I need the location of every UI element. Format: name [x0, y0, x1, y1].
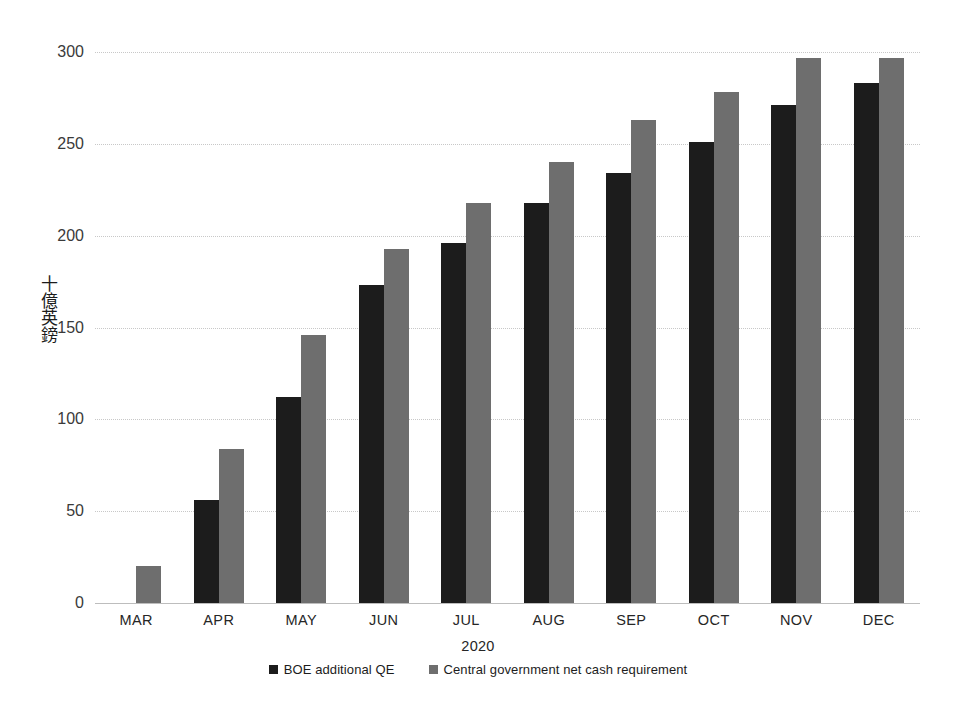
bar[interactable]: [524, 203, 549, 603]
y-tick-label: 150: [0, 319, 84, 337]
bar[interactable]: [606, 173, 631, 603]
x-tick-label: DEC: [838, 612, 921, 628]
bar-group: [95, 52, 178, 603]
bar[interactable]: [796, 58, 821, 603]
bar-group: [590, 52, 673, 603]
bar-group: [755, 52, 838, 603]
bar-group: [178, 52, 261, 603]
y-axis-tick-labels: 300 250 200 150 100 50 0: [0, 52, 84, 603]
chart-legend: BOE additional QE Central government net…: [0, 662, 956, 677]
x-tick-label: NOV: [755, 612, 838, 628]
bar[interactable]: [301, 335, 326, 603]
y-tick-label: 250: [0, 135, 84, 153]
x-tick-label: APR: [178, 612, 261, 628]
y-tick-label: 200: [0, 227, 84, 245]
x-axis-tick-labels: MARAPRMAYJUNJULAUGSEPOCTNOVDEC: [95, 612, 920, 636]
square-marker-icon: [269, 665, 278, 674]
bar-group: [260, 52, 343, 603]
bar[interactable]: [219, 449, 244, 603]
bar[interactable]: [714, 92, 739, 603]
bar[interactable]: [631, 120, 656, 603]
bar[interactable]: [359, 285, 384, 603]
y-tick-label: 100: [0, 410, 84, 428]
x-axis-title: 2020: [0, 638, 956, 654]
x-tick-label: OCT: [673, 612, 756, 628]
bar[interactable]: [466, 203, 491, 603]
y-tick-label: 300: [0, 43, 84, 61]
bar[interactable]: [689, 142, 714, 603]
y-tick-label: 0: [0, 594, 84, 612]
chart-root: 十億英鎊 300 250 200 150 100 50 0 MARAPRMAYJ…: [0, 0, 956, 718]
bar[interactable]: [136, 566, 161, 603]
legend-label: Central government net cash requirement: [444, 662, 688, 677]
bar[interactable]: [854, 83, 879, 603]
x-tick-label: AUG: [508, 612, 591, 628]
legend-label: BOE additional QE: [284, 662, 395, 677]
gridline-0: [95, 603, 920, 604]
x-tick-label: JUL: [425, 612, 508, 628]
plot-area: [95, 52, 920, 603]
bar[interactable]: [384, 249, 409, 603]
bar-group: [838, 52, 921, 603]
legend-item-central-government-net-cash-requirement[interactable]: Central government net cash requirement: [429, 662, 688, 677]
bar-groups: [95, 52, 920, 603]
square-marker-icon: [429, 665, 438, 674]
y-tick-label: 50: [0, 502, 84, 520]
x-tick-label: SEP: [590, 612, 673, 628]
bar[interactable]: [276, 397, 301, 603]
bar[interactable]: [549, 162, 574, 603]
bar[interactable]: [771, 105, 796, 603]
bar-group: [508, 52, 591, 603]
bar[interactable]: [441, 243, 466, 603]
bar[interactable]: [194, 500, 219, 603]
legend-item-boe-additional-qe[interactable]: BOE additional QE: [269, 662, 395, 677]
bar-group: [343, 52, 426, 603]
x-tick-label: JUN: [343, 612, 426, 628]
bar-group: [425, 52, 508, 603]
bar[interactable]: [879, 58, 904, 603]
bar-group: [673, 52, 756, 603]
x-tick-label: MAY: [260, 612, 343, 628]
x-tick-label: MAR: [95, 612, 178, 628]
